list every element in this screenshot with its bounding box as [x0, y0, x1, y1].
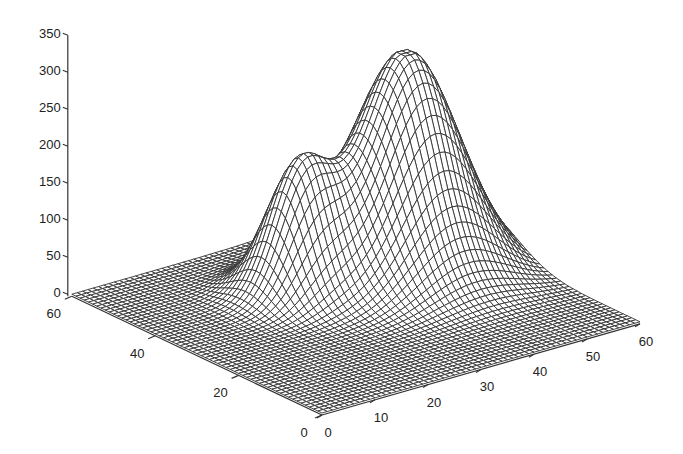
z-tick-label: 200 — [39, 137, 61, 152]
y-tick-label: 60 — [47, 306, 61, 321]
z-axis-tick — [63, 181, 68, 183]
z-tick-label: 100 — [39, 211, 61, 226]
z-axis-tick — [63, 70, 68, 72]
surface-plot: 0501001502002503003500102030405060020406… — [0, 0, 683, 454]
y-axis-tick — [65, 296, 72, 299]
z-axis-tick — [63, 33, 68, 35]
y-axis-tick — [232, 375, 239, 378]
z-tick-label: 300 — [39, 63, 61, 78]
z-axis-tick — [63, 255, 68, 257]
x-tick-label: 30 — [480, 379, 494, 394]
z-axis-tick — [63, 218, 68, 220]
x-tick-label: 50 — [586, 349, 600, 364]
surface-mesh — [72, 50, 640, 414]
x-tick-label: 40 — [533, 364, 547, 379]
z-tick-label: 0 — [54, 285, 61, 300]
z-axis-tick — [63, 107, 68, 109]
z-axis-tick — [63, 144, 68, 146]
z-axis-tick — [63, 292, 68, 294]
y-tick-label: 0 — [300, 425, 307, 440]
z-tick-label: 150 — [39, 174, 61, 189]
x-tick-label: 10 — [374, 410, 388, 425]
y-tick-label: 40 — [130, 346, 144, 361]
x-tick-label: 20 — [427, 395, 441, 410]
z-tick-label: 350 — [39, 26, 61, 41]
y-axis-tick — [148, 336, 155, 339]
x-tick-label: 0 — [324, 425, 331, 440]
x-tick-label: 60 — [639, 334, 653, 349]
z-tick-label: 250 — [39, 100, 61, 115]
z-tick-label: 50 — [46, 248, 60, 263]
surface-plot-canvas: 0501001502002503003500102030405060020406… — [0, 0, 683, 454]
y-tick-label: 20 — [213, 385, 227, 400]
